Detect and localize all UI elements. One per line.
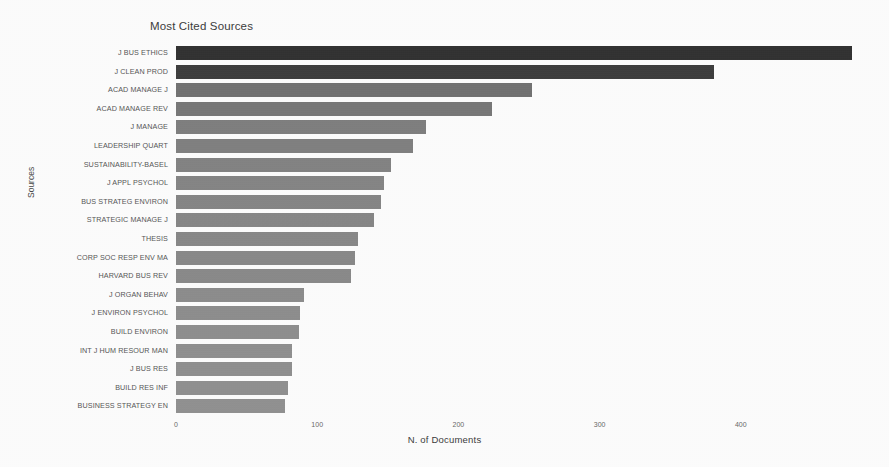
category-label: J APPL PSYCHOL <box>0 174 168 192</box>
bar-row[interactable] <box>176 306 300 320</box>
bar-noise-texture <box>176 232 358 246</box>
bar[interactable] <box>176 325 299 339</box>
bar-row[interactable] <box>176 120 426 134</box>
bar-row[interactable] <box>176 288 304 302</box>
bar[interactable] <box>176 176 384 190</box>
bar[interactable] <box>176 83 532 97</box>
bar[interactable] <box>176 288 304 302</box>
bar-row[interactable] <box>176 325 299 339</box>
bar-row[interactable] <box>176 65 714 79</box>
category-label: J ENVIRON PSYCHOL <box>0 304 168 322</box>
bar-row[interactable] <box>176 213 374 227</box>
bar-row[interactable] <box>176 83 532 97</box>
category-label: STRATEGIC MANAGE J <box>0 211 168 229</box>
bar[interactable] <box>176 213 374 227</box>
category-label: THESIS <box>0 230 168 248</box>
bar-noise-texture <box>176 381 288 395</box>
bar-row[interactable] <box>176 344 292 358</box>
bar-row[interactable] <box>176 232 358 246</box>
category-label: BUILD RES INF <box>0 379 168 397</box>
bar-noise-texture <box>176 120 426 134</box>
category-label: J CLEAN PROD <box>0 63 168 81</box>
category-label: LEADERSHIP QUART <box>0 137 168 155</box>
bar-row[interactable] <box>176 158 391 172</box>
bar[interactable] <box>176 232 358 246</box>
bar-noise-texture <box>176 325 299 339</box>
bar-noise-texture <box>176 344 292 358</box>
bar-noise-texture <box>176 65 714 79</box>
bar-noise-texture <box>176 83 532 97</box>
bar-row[interactable] <box>176 195 381 209</box>
bar-noise-texture <box>176 399 285 413</box>
bar[interactable] <box>176 306 300 320</box>
chart-title: Most Cited Sources <box>150 20 253 32</box>
bar-row[interactable] <box>176 46 852 60</box>
bar-noise-texture <box>176 102 492 116</box>
bar[interactable] <box>176 269 351 283</box>
bar[interactable] <box>176 195 381 209</box>
bar-row[interactable] <box>176 251 355 265</box>
bar-row[interactable] <box>176 139 413 153</box>
category-label: J BUS RES <box>0 360 168 378</box>
bar[interactable] <box>176 102 492 116</box>
bar[interactable] <box>176 344 292 358</box>
bar-noise-texture <box>176 176 384 190</box>
bar[interactable] <box>176 399 285 413</box>
bar[interactable] <box>176 139 413 153</box>
bar-noise-texture <box>176 158 391 172</box>
category-label: ACAD MANAGE J <box>0 81 168 99</box>
category-label: BUS STRATEG ENVIRON <box>0 193 168 211</box>
category-label: J ORGAN BEHAV <box>0 286 168 304</box>
bar-noise-texture <box>176 195 381 209</box>
x-axis-title: N. of Documents <box>0 434 889 445</box>
bar-noise-texture <box>176 213 374 227</box>
plot-area <box>176 46 882 416</box>
bar-row[interactable] <box>176 381 288 395</box>
category-label: J BUS ETHICS <box>0 44 168 62</box>
x-tick-label: 400 <box>735 421 747 428</box>
bar[interactable] <box>176 362 292 376</box>
x-tick-label: 200 <box>453 421 465 428</box>
bar[interactable] <box>176 158 391 172</box>
bar[interactable] <box>176 381 288 395</box>
bar-noise-texture <box>176 46 852 60</box>
category-label: CORP SOC RESP ENV MA <box>0 249 168 267</box>
x-tick-label: 300 <box>594 421 606 428</box>
bar[interactable] <box>176 251 355 265</box>
category-label: INT J HUM RESOUR MAN <box>0 342 168 360</box>
bar-noise-texture <box>176 269 351 283</box>
bar-noise-texture <box>176 251 355 265</box>
bar-row[interactable] <box>176 362 292 376</box>
bar[interactable] <box>176 46 852 60</box>
category-label: BUILD ENVIRON <box>0 323 168 341</box>
bar-noise-texture <box>176 288 304 302</box>
category-label: HARVARD BUS REV <box>0 267 168 285</box>
x-tick-label: 0 <box>174 421 178 428</box>
bar-noise-texture <box>176 362 292 376</box>
category-label: ACAD MANAGE REV <box>0 100 168 118</box>
bar-noise-texture <box>176 139 413 153</box>
bar-row[interactable] <box>176 269 351 283</box>
bar-noise-texture <box>176 306 300 320</box>
bar[interactable] <box>176 120 426 134</box>
bar[interactable] <box>176 65 714 79</box>
bar-row[interactable] <box>176 399 285 413</box>
most-cited-sources-chart: Most Cited Sources Sources 0100200300400… <box>0 0 889 467</box>
bar-row[interactable] <box>176 176 384 190</box>
category-label: SUSTAINABILITY-BASEL <box>0 156 168 174</box>
x-tick-label: 100 <box>311 421 323 428</box>
category-label: J MANAGE <box>0 118 168 136</box>
bar-row[interactable] <box>176 102 492 116</box>
category-label: BUSINESS STRATEGY EN <box>0 397 168 415</box>
